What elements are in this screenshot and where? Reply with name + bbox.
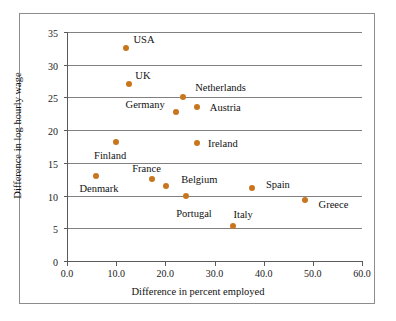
data-point-uk[interactable] — [126, 81, 132, 87]
x-axis-tick-label: 60.0 — [353, 268, 371, 279]
x-axis-tick-label: 30.0 — [206, 268, 224, 279]
y-axis-tick-label: 15 — [48, 158, 58, 169]
x-axis-tick — [67, 261, 68, 266]
data-point-portugal[interactable] — [183, 193, 189, 199]
data-point-denmark[interactable] — [93, 173, 99, 179]
data-point-label-italy: Italy — [234, 208, 253, 219]
y-axis-tick-label: 10 — [48, 191, 58, 202]
data-point-label-belgium: Belgium — [181, 174, 217, 185]
plot-area: USAUKNetherlandsAustriaGermanyIrelandFin… — [67, 32, 362, 261]
data-point-netherlands[interactable] — [180, 94, 186, 100]
x-axis-tick — [313, 261, 314, 266]
data-point-label-spain: Spain — [266, 179, 290, 190]
x-axis-tick — [362, 261, 363, 266]
x-axis-tick — [215, 261, 216, 266]
x-axis-tick-label: 10.0 — [107, 268, 125, 279]
data-point-austria[interactable] — [194, 104, 200, 110]
x-axis-title: Difference in percent employed — [0, 286, 396, 297]
data-point-label-austria: Austria — [210, 101, 241, 112]
data-point-label-ireland: Ireland — [208, 138, 238, 149]
x-axis-tick-label: 50.0 — [304, 268, 322, 279]
data-point-ireland[interactable] — [194, 140, 200, 146]
data-point-italy[interactable] — [230, 223, 236, 229]
data-point-germany[interactable] — [173, 109, 179, 115]
data-point-usa[interactable] — [123, 45, 129, 51]
data-point-france[interactable] — [149, 176, 155, 182]
x-axis-tick — [264, 261, 265, 266]
data-point-greece[interactable] — [302, 197, 308, 203]
x-axis-tick-label: 40.0 — [255, 268, 273, 279]
data-point-label-france: France — [132, 162, 161, 173]
scatter-chart-figure: 05101520253035 0.010.020.030.040.050.060… — [0, 0, 396, 321]
data-point-label-netherlands: Netherlands — [195, 82, 246, 93]
data-point-label-denmark: Denmark — [79, 182, 118, 193]
y-axis-tick-label: 25 — [48, 93, 58, 104]
y-axis-tick-label: 30 — [48, 60, 58, 71]
y-axis-tick-label: 0 — [53, 257, 58, 268]
data-point-label-germany: Germany — [126, 99, 165, 110]
data-point-label-portugal: Portugal — [176, 208, 212, 219]
data-point-label-usa: USA — [133, 34, 154, 45]
x-axis-tick — [165, 261, 166, 266]
data-point-spain[interactable] — [249, 185, 255, 191]
y-axis-title: Difference in log hourly wage — [12, 46, 23, 226]
x-axis-tick-label: 0.0 — [61, 268, 74, 279]
y-axis-tick-label: 20 — [48, 126, 58, 137]
data-point-label-uk: UK — [135, 69, 150, 80]
x-axis: 0.010.020.030.040.050.060.0 — [67, 261, 362, 262]
data-point-label-greece: Greece — [319, 199, 349, 210]
y-axis-tick-label: 5 — [53, 224, 58, 235]
data-point-finland[interactable] — [113, 139, 119, 145]
x-axis-tick — [116, 261, 117, 266]
y-axis-tick-label: 35 — [48, 28, 58, 39]
data-point-belgium[interactable] — [163, 183, 169, 189]
data-point-label-finland: Finland — [94, 149, 126, 160]
x-axis-tick-label: 20.0 — [157, 268, 175, 279]
